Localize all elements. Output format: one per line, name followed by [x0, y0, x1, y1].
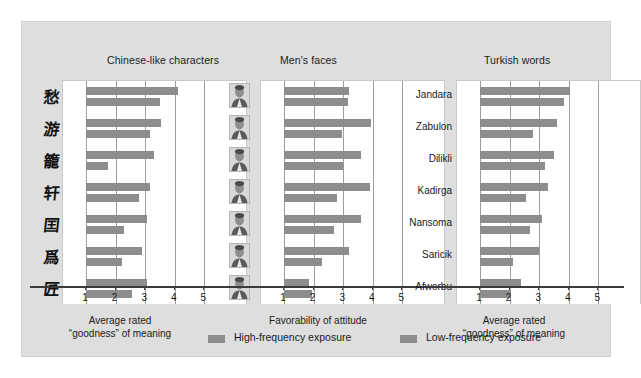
- legend-label-high: High-frequency exposure: [234, 331, 351, 343]
- bar-low: [480, 130, 533, 138]
- x-tick: [85, 286, 86, 290]
- bar-low: [86, 98, 160, 106]
- category-labels-turkish: JandaraZabulonDilikliKadirgaNansomaSaric…: [390, 80, 452, 304]
- category-label: Nansoma: [390, 217, 452, 228]
- x-tick-label: 1: [469, 292, 489, 303]
- bar-high: [284, 87, 349, 95]
- x-tick-label: 2: [105, 292, 125, 303]
- bar-high: [284, 215, 361, 223]
- x-axis-line-turkish: [424, 286, 624, 288]
- bar-low: [284, 258, 322, 266]
- face-photo-icon: [229, 243, 250, 268]
- bar-low: [86, 130, 150, 138]
- x-tick: [509, 286, 510, 290]
- x-axis-title-chinese: Average rated “goodness” of meaning: [40, 314, 200, 340]
- category-glyph: 匠: [43, 276, 62, 300]
- bar-low: [86, 194, 139, 202]
- x-tick: [174, 286, 175, 290]
- bar-high: [284, 183, 370, 191]
- bar-low: [480, 226, 530, 234]
- x-tick-label: 1: [273, 292, 293, 303]
- legend-swatch-low: [400, 335, 417, 343]
- category-glyph: 愁: [43, 84, 62, 108]
- bar-high: [480, 151, 554, 159]
- x-tick-label: 2: [303, 292, 323, 303]
- x-tick: [342, 286, 343, 290]
- bar-low: [284, 98, 348, 106]
- bar-high: [480, 87, 570, 95]
- x-tick-label: 5: [587, 292, 607, 303]
- x-tick: [597, 286, 598, 290]
- category-glyph: 爲: [43, 244, 62, 268]
- x-tick: [115, 286, 116, 290]
- x-tick-label: 4: [362, 292, 382, 303]
- bar-group-turkish: [457, 81, 640, 304]
- category-glyph: 籠: [43, 148, 62, 172]
- legend-label-low: Low-frequency exposure: [426, 331, 541, 343]
- bar-low: [480, 258, 513, 266]
- x-axis-title-faces: Favorability of attitude: [238, 314, 398, 327]
- x-tick-label: 1: [75, 292, 95, 303]
- face-photo-icon: [229, 147, 250, 172]
- x-tick: [203, 286, 204, 290]
- bar-low: [284, 130, 342, 138]
- panel-title-chinese: Chinese-like characters: [107, 54, 219, 66]
- bar-high: [86, 119, 161, 127]
- legend-swatch-high: [208, 335, 225, 343]
- bar-high: [480, 247, 539, 255]
- bar-low: [480, 194, 526, 202]
- category-glyph: 轩: [43, 180, 62, 204]
- x-tick: [144, 286, 145, 290]
- bar-low: [284, 162, 343, 170]
- category-label: Dilikli: [390, 153, 452, 164]
- plot-area-turkish: [456, 80, 641, 304]
- bar-low: [284, 226, 334, 234]
- x-axis-line-chinese: [30, 286, 230, 288]
- bar-low: [86, 162, 108, 170]
- bar-low: [86, 258, 122, 266]
- category-label: Zabulon: [390, 121, 452, 132]
- x-tick: [313, 286, 314, 290]
- x-tick-label: 3: [134, 292, 154, 303]
- bar-high: [480, 119, 557, 127]
- bar-high: [86, 183, 150, 191]
- bar-high: [480, 215, 542, 223]
- x-tick: [538, 286, 539, 290]
- bar-high: [284, 151, 361, 159]
- x-tick-label: 4: [164, 292, 184, 303]
- bar-high: [86, 247, 142, 255]
- face-photo-icon: [229, 83, 250, 108]
- panel-title-faces: Men's faces: [280, 54, 337, 66]
- x-tick-label: 4: [558, 292, 578, 303]
- face-photo-icon: [229, 115, 250, 140]
- category-label: Kadirga: [390, 185, 452, 196]
- category-label: Jandara: [390, 89, 452, 100]
- bar-low: [480, 98, 564, 106]
- x-tick-label: 3: [528, 292, 548, 303]
- bar-high: [284, 119, 371, 127]
- bar-high: [284, 247, 349, 255]
- face-photo-icon: [229, 211, 250, 236]
- panel-title-turkish: Turkish words: [484, 54, 550, 66]
- x-tick-label: 2: [499, 292, 519, 303]
- bar-low: [480, 162, 545, 170]
- face-photo-icon: [229, 179, 250, 204]
- bar-high: [480, 183, 548, 191]
- bar-high: [86, 151, 154, 159]
- bar-low: [284, 194, 337, 202]
- x-tick: [372, 286, 373, 290]
- figure-container: Chinese-like characters 愁游籠轩囯爲匠 12345 Av…: [22, 22, 610, 356]
- bar-low: [86, 226, 124, 234]
- category-glyph: 囯: [43, 212, 62, 236]
- x-tick-label: 3: [332, 292, 352, 303]
- category-label: Saricik: [390, 249, 452, 260]
- category-labels-chinese: 愁游籠轩囯爲匠: [12, 80, 60, 304]
- x-tick: [479, 286, 480, 290]
- bar-high: [86, 215, 147, 223]
- bar-high: [86, 87, 178, 95]
- x-tick: [568, 286, 569, 290]
- category-labels-faces: [210, 80, 256, 304]
- category-glyph: 游: [43, 116, 62, 140]
- x-tick: [283, 286, 284, 290]
